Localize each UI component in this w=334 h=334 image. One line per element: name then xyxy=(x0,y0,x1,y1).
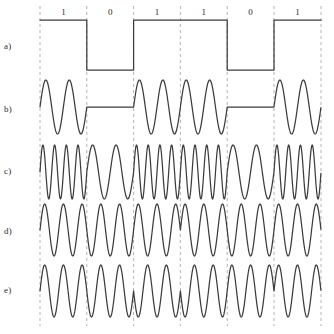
waveform-canvas xyxy=(0,0,334,334)
row-label-b: b) xyxy=(4,104,12,114)
waveform-b xyxy=(40,80,321,134)
bit-label-0: 1 xyxy=(61,7,66,17)
row-label-e: e) xyxy=(4,285,11,295)
bit-label-3: 1 xyxy=(202,7,207,17)
bit-label-4: 0 xyxy=(248,7,253,17)
row-label-c: c) xyxy=(4,166,11,176)
bit-label-2: 1 xyxy=(155,7,160,17)
row-label-a: a) xyxy=(4,41,11,51)
bit-label-5: 1 xyxy=(295,7,300,17)
bit-label-1: 0 xyxy=(108,7,113,17)
waveform-c xyxy=(40,145,321,199)
modulation-figure: a)b)c)d)e) 101101 xyxy=(0,0,334,334)
row-label-d: d) xyxy=(4,226,12,236)
